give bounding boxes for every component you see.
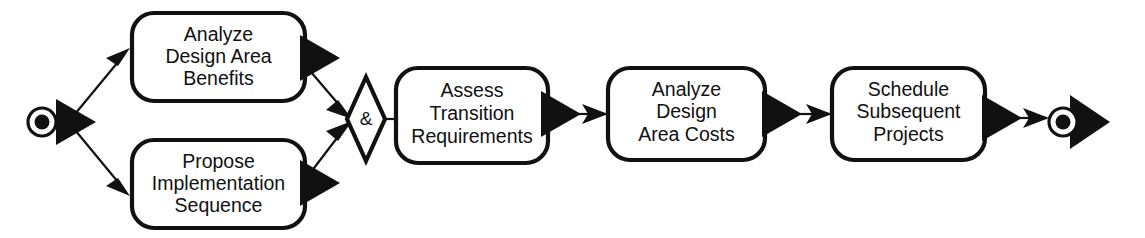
activity-schedule-subsequent-projects[interactable]: Schedule Subsequent Projects	[832, 68, 985, 160]
activity-label-line-1: Schedule	[868, 78, 949, 100]
end-node[interactable]	[1049, 95, 1110, 149]
activity-label-line-2: Design Area	[165, 45, 271, 67]
activity-diagram-svg: Analyze Design Area Benefits Propose Imp…	[0, 0, 1145, 238]
flow-marker-icon	[300, 35, 340, 81]
transition-assess-to-costs	[541, 91, 608, 137]
transition-line	[311, 72, 340, 106]
transition-propose-to-join	[300, 121, 352, 206]
activity-label-line-3: Requirements	[411, 125, 533, 147]
activity-assess-transition-requirements[interactable]: Assess Transition Requirements	[396, 68, 548, 163]
flow-marker-icon	[541, 91, 581, 137]
join-gate-label: &	[360, 108, 373, 129]
activity-label-line-2: Subsequent	[856, 100, 961, 122]
arrowhead-icon	[106, 178, 130, 196]
transition-start-to-benefits	[56, 48, 130, 145]
flow-marker-icon	[982, 95, 1022, 141]
activity-label-line-1: Assess	[441, 79, 504, 101]
activity-label-line-3: Projects	[873, 123, 944, 145]
start-node[interactable]	[28, 108, 56, 136]
flow-marker-icon	[762, 91, 802, 137]
activity-diagram-canvas: Analyze Design Area Benefits Propose Imp…	[0, 0, 1145, 238]
activity-label-line-1: Analyze	[184, 23, 253, 45]
activity-label-line-2: Transition	[430, 102, 515, 124]
transition-start-to-propose	[75, 130, 130, 196]
activity-label-line-2: Design	[656, 100, 717, 122]
activity-label-line-3: Area Costs	[638, 123, 735, 145]
activity-label-line-1: Analyze	[652, 78, 721, 100]
activity-analyze-design-area-costs[interactable]: Analyze Design Area Costs	[608, 68, 765, 160]
activity-label-line-3: Sequence	[175, 194, 263, 216]
transition-costs-to-schedule	[762, 91, 832, 137]
activity-propose-implementation-sequence[interactable]: Propose Implementation Sequence	[132, 140, 305, 228]
and-join-gate[interactable]: &	[347, 77, 385, 161]
activity-label-line-2: Implementation	[152, 172, 285, 194]
transition-line	[75, 62, 118, 114]
transition-line	[311, 134, 340, 172]
transition-line	[75, 130, 118, 182]
end-node-dot-icon	[1056, 115, 1071, 130]
arrowhead-icon	[106, 48, 130, 66]
transition-benefits-to-join	[300, 35, 352, 119]
transition-schedule-to-end	[982, 95, 1049, 141]
start-node-dot-icon	[35, 115, 50, 130]
flow-marker-icon	[56, 99, 96, 145]
flow-marker-icon	[300, 160, 340, 206]
activity-label-line-1: Propose	[182, 150, 255, 172]
activity-label-line-3: Benefits	[183, 67, 254, 89]
activity-analyze-design-area-benefits[interactable]: Analyze Design Area Benefits	[132, 13, 305, 101]
